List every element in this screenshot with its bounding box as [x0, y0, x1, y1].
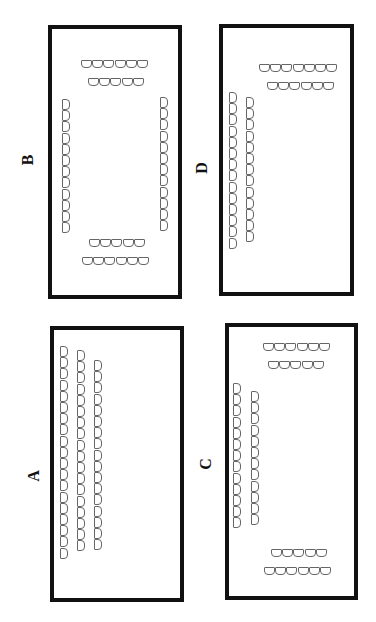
seat	[160, 164, 168, 175]
seat	[251, 413, 259, 424]
seat	[126, 60, 137, 68]
seat	[160, 142, 168, 153]
seat	[251, 391, 259, 402]
seat	[263, 343, 274, 351]
seat	[88, 78, 99, 86]
seat	[304, 64, 315, 72]
panel-label-b: B	[18, 150, 38, 170]
seat	[251, 503, 259, 514]
room-a	[50, 326, 184, 602]
seat	[62, 144, 70, 155]
seat	[285, 343, 296, 351]
seat	[104, 257, 115, 265]
seat	[233, 517, 241, 528]
seat	[160, 220, 168, 231]
seat	[60, 525, 68, 536]
seat	[94, 461, 102, 472]
seat	[62, 99, 70, 110]
seat	[138, 257, 149, 265]
seat	[77, 395, 85, 406]
seat	[62, 200, 70, 211]
seat	[99, 78, 110, 86]
seat	[289, 82, 300, 90]
seat	[229, 148, 237, 159]
seat	[94, 528, 102, 539]
seat	[60, 346, 68, 357]
seat	[77, 496, 85, 507]
seat	[62, 121, 70, 132]
seat	[233, 405, 241, 416]
seat	[60, 536, 68, 547]
seat	[229, 238, 237, 249]
seat	[323, 82, 334, 90]
seat	[60, 380, 68, 391]
seat	[115, 60, 126, 68]
seat	[279, 361, 290, 369]
seat	[160, 119, 168, 130]
seat	[60, 391, 68, 402]
seat	[160, 153, 168, 164]
seat	[233, 473, 241, 484]
seat	[229, 114, 237, 125]
seat	[133, 78, 144, 86]
seat	[89, 239, 100, 247]
seat	[137, 60, 148, 68]
seat	[229, 103, 237, 114]
seat	[81, 60, 92, 68]
seat	[267, 82, 278, 90]
seat	[251, 458, 259, 469]
seat	[246, 153, 254, 164]
seat	[246, 97, 254, 108]
seat	[281, 64, 292, 72]
seat	[229, 193, 237, 204]
seat	[251, 481, 259, 492]
seat	[259, 64, 270, 72]
seat	[77, 529, 85, 540]
seat	[127, 257, 138, 265]
seat	[233, 383, 241, 394]
seat	[313, 361, 324, 369]
seat	[110, 78, 121, 86]
seat	[246, 108, 254, 119]
seat	[282, 549, 293, 557]
seat	[302, 361, 313, 369]
seat	[229, 204, 237, 215]
seat	[271, 549, 282, 557]
seat	[275, 567, 286, 575]
seat	[77, 361, 85, 372]
seat	[233, 417, 241, 428]
seat	[134, 239, 145, 247]
seat	[274, 343, 285, 351]
seat	[62, 110, 70, 121]
seat	[251, 469, 259, 480]
seat	[77, 406, 85, 417]
seat	[62, 222, 70, 233]
seat	[251, 514, 259, 525]
seat	[94, 416, 102, 427]
panel-label-d: D	[192, 158, 212, 178]
seat	[77, 473, 85, 484]
seat	[94, 517, 102, 528]
seat	[77, 518, 85, 529]
seat	[60, 514, 68, 525]
seat	[94, 450, 102, 461]
seat	[246, 164, 254, 175]
seat	[62, 189, 70, 200]
seat	[308, 343, 319, 351]
seat	[82, 257, 93, 265]
seat	[60, 413, 68, 424]
seat	[62, 211, 70, 222]
seat	[297, 343, 308, 351]
seat	[103, 60, 114, 68]
seat	[94, 472, 102, 483]
seat	[94, 405, 102, 416]
seat	[160, 175, 168, 186]
room-c	[225, 323, 358, 600]
seat	[60, 458, 68, 469]
seat	[60, 469, 68, 480]
seat	[286, 567, 297, 575]
seat	[246, 187, 254, 198]
seat	[77, 484, 85, 495]
seat	[60, 480, 68, 491]
seat	[77, 540, 85, 551]
